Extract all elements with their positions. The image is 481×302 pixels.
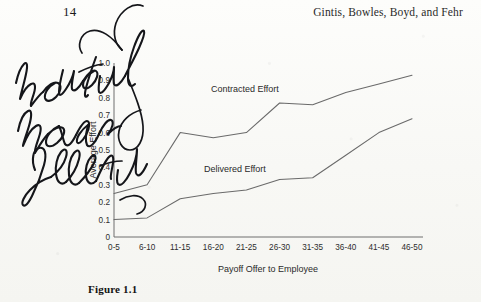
series-inline-labels: Contracted EffortDelivered Effort [204, 84, 279, 174]
y-tick-label: 0.5 [99, 146, 111, 155]
x-axis-title: Payoff Offer to Employee [218, 264, 318, 274]
x-tick-label: 36-40 [335, 243, 356, 252]
x-tick-label: 31-35 [302, 243, 323, 252]
x-tick-label: 16-20 [203, 243, 224, 252]
y-axis-tick-labels: 00.10.20.30.40.50.60.70.80.91.0 [99, 59, 111, 242]
y-tick-label: 0.3 [99, 181, 111, 190]
y-tick-label: 0.7 [99, 111, 111, 120]
y-tick-label: 0.8 [99, 94, 111, 103]
x-tick-label: 6-10 [139, 243, 156, 252]
y-tick-label: 0 [105, 233, 110, 242]
x-axis-tick-labels: 0-56-1011-1516-2021-2526-3031-3536-4041-… [108, 243, 423, 252]
x-tick-label: 46-50 [402, 243, 423, 252]
x-tick-label: 11-15 [170, 243, 191, 252]
series-label: Delivered Effort [204, 164, 266, 174]
y-tick-label: 0.6 [99, 129, 111, 138]
series-label: Contracted Effort [211, 84, 279, 94]
x-tick-label: 0-5 [108, 243, 120, 252]
y-tick-label: 0.2 [99, 198, 111, 207]
y-tick-label: 1.0 [99, 59, 111, 68]
x-tick-label: 26-30 [269, 243, 290, 252]
x-tick-label: 21-25 [236, 243, 257, 252]
y-tick-label: 0.1 [99, 216, 111, 225]
y-tick-label: 0.9 [99, 76, 111, 85]
figure-caption: Figure 1.1 [88, 283, 137, 295]
chart-series-lines [114, 75, 412, 219]
x-tick-label: 41-45 [368, 243, 389, 252]
line-chart: 00.10.20.30.40.50.60.70.80.91.0 0-56-101… [0, 0, 481, 302]
y-tick-label: 0.4 [99, 163, 111, 172]
y-axis-title: Average Effort [88, 121, 98, 179]
